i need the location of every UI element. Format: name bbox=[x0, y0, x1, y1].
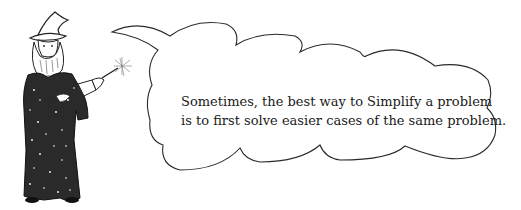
cartoon-panel: Sometimes, the best way to Simplify a pr… bbox=[0, 0, 521, 210]
caption-line: Sometimes, the best way to Simplify a pr… bbox=[181, 92, 501, 111]
caption-line: is to first solve easier cases of the sa… bbox=[181, 111, 501, 130]
speech-bubble-text: Sometimes, the best way to Simplify a pr… bbox=[181, 92, 501, 130]
